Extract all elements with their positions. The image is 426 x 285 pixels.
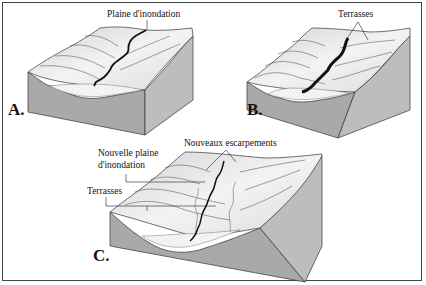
label-nouvelle-plaine-c: Nouvelle plaine: [98, 148, 158, 158]
panel-label-a: A.: [8, 101, 25, 118]
label-terrasses-b: Terrasses: [338, 9, 373, 19]
panel-label-b: B.: [247, 101, 263, 118]
panel-label-c: C.: [93, 247, 110, 264]
block-b: [247, 22, 410, 138]
block-a: [28, 20, 193, 135]
label-plaine-inondation-a: Plaine d'inondation: [107, 9, 180, 19]
label-terrasses-c: Terrasses: [87, 186, 122, 196]
label-inondation-c: d'inondation: [98, 160, 145, 170]
label-nouveaux-escarpements-c: Nouveaux escarpements: [184, 138, 277, 148]
